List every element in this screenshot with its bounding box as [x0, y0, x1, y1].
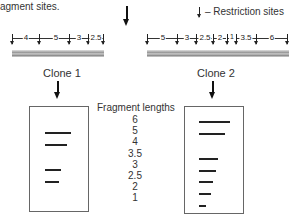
fragment-label: 6	[269, 33, 275, 42]
ladder-value: 5	[120, 125, 150, 136]
restriction-site-icon	[196, 34, 197, 44]
restriction-site-icon	[12, 34, 13, 44]
fragment-label: 3	[184, 33, 190, 42]
gel-band	[199, 170, 216, 172]
gel-band	[45, 181, 59, 183]
gel-band	[199, 181, 213, 183]
ladder-value: 3.5	[120, 148, 150, 159]
ladder-value: 1	[120, 192, 150, 203]
restriction-site-icon	[177, 34, 178, 44]
restriction-site-icon	[213, 34, 214, 44]
ladder-value: 6	[120, 114, 150, 125]
legend-label: – Restriction sites	[205, 6, 284, 17]
clone1-dna	[12, 50, 104, 57]
fragment-label: 3.5	[239, 33, 252, 42]
ladder-value: 2.5	[120, 170, 150, 181]
fragment-label: 3	[76, 33, 82, 42]
fragment-label: 5	[53, 33, 59, 42]
restriction-site-icon	[256, 34, 257, 44]
ladder-title: Fragment lengths	[97, 102, 175, 113]
clone2-arrow-icon	[212, 81, 214, 93]
fragment-label: 1	[229, 33, 235, 40]
clone2-label: Clone 2	[197, 67, 235, 79]
gel-band	[45, 169, 61, 171]
gel-band	[45, 132, 71, 134]
gel-band	[45, 144, 67, 146]
ladder-value: 3	[120, 159, 150, 170]
restriction-site-icon	[69, 34, 70, 44]
fragment-label: 5	[160, 33, 166, 42]
restriction-site-icon	[227, 34, 228, 44]
clone1-label: Clone 1	[43, 67, 81, 79]
restriction-site-icon	[287, 34, 288, 44]
digest-arrow-icon	[126, 6, 128, 20]
fragment-label: 2	[217, 33, 223, 42]
gel-band	[199, 193, 211, 195]
restriction-site-icon	[39, 34, 40, 44]
legend: – Restriction sites	[197, 6, 289, 20]
restriction-site-icon	[236, 34, 237, 44]
clone2-dna	[147, 50, 289, 57]
ladder-value: 2	[120, 181, 150, 192]
gel-band	[199, 133, 225, 135]
fragment-label: 4	[23, 33, 29, 42]
restriction-site-icon	[199, 7, 200, 17]
clone1-restriction-map: 4 5 3 2.5	[12, 34, 104, 46]
clone2-gel	[184, 106, 244, 214]
gel-band	[199, 205, 206, 207]
clone1-arrow-icon	[57, 81, 59, 93]
clone2-restriction-map: 5 3 2.5 2 1 3.5 6	[147, 34, 289, 46]
ladder-value: 4	[120, 136, 150, 147]
gel-band	[199, 121, 230, 123]
clone1-gel	[29, 106, 89, 212]
gel-band	[199, 158, 218, 160]
restriction-site-icon	[147, 34, 148, 44]
ladder-values: 6 5 4 3.5 3 2.5 2 1	[120, 114, 150, 204]
fragment-label: 2.5	[198, 33, 211, 42]
restriction-site-icon	[103, 34, 104, 44]
partial-caption: agment sites.	[0, 1, 59, 12]
